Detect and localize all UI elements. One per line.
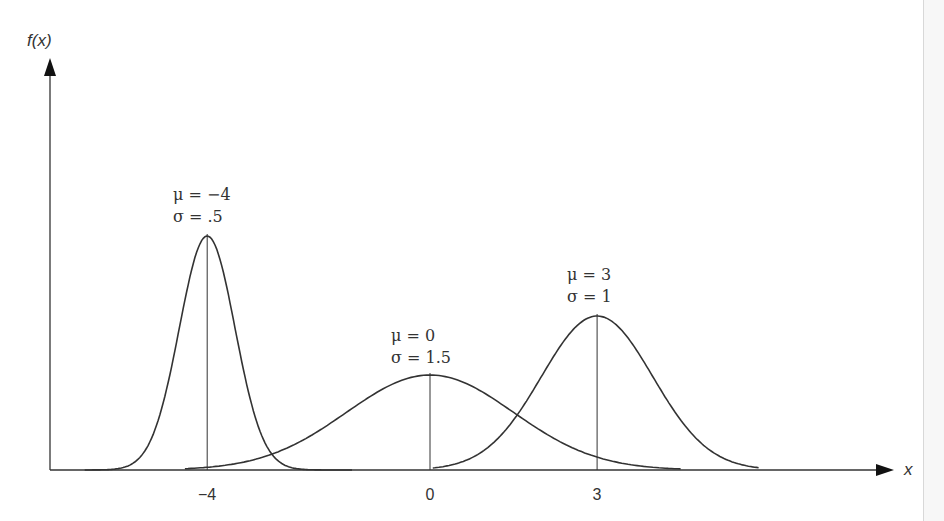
curve3-sigma-label: σ = 1 — [567, 286, 612, 308]
x-tick-0: 0 — [426, 486, 435, 504]
x-tick-3: 3 — [593, 486, 602, 504]
curve1-sigma-label: σ = .5 — [173, 206, 231, 228]
curve2-mu-label: μ = 0 — [391, 325, 451, 347]
page-edge — [923, 0, 944, 521]
x-tick-neg4: −4 — [198, 486, 216, 504]
curve2-sigma-label: σ = 1.5 — [391, 347, 451, 369]
x-axis-arrow-icon — [876, 464, 894, 476]
curve1-annotation: μ = −4 σ = .5 — [173, 184, 231, 228]
curve3-annotation: μ = 3 σ = 1 — [567, 264, 612, 308]
curve1-mu-label: μ = −4 — [173, 184, 231, 206]
curve2-annotation: μ = 0 σ = 1.5 — [391, 325, 451, 369]
y-axis-label: f(x) — [27, 31, 52, 51]
y-axis — [44, 58, 56, 470]
x-axis — [50, 464, 894, 476]
curve-2 — [185, 375, 681, 469]
curve3-mu-label: μ = 3 — [567, 264, 612, 286]
y-axis-arrow-icon — [44, 58, 56, 76]
x-axis-label: x — [904, 460, 913, 480]
